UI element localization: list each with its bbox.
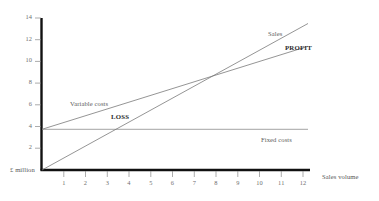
x-tick-label-7: 7: [186, 180, 202, 186]
x-tick-label-8: 8: [208, 180, 224, 186]
sales-line: [42, 24, 308, 171]
x-tick-label-1: 1: [56, 180, 72, 186]
x-tick-label-10: 10: [252, 180, 268, 186]
y-tick-label-10: 10: [14, 57, 32, 63]
sales-line-label: Sales: [268, 31, 282, 38]
fixed-costs-label: Fixed costs: [261, 137, 292, 144]
loss-region-label: LOSS: [111, 114, 129, 121]
y-tick-label-12: 12: [14, 36, 32, 42]
variable-costs-label: Variable costs: [70, 101, 108, 108]
x-tick-label-5: 5: [143, 180, 159, 186]
x-tick-label-11: 11: [273, 180, 289, 186]
y-axis-caption: £ million: [10, 167, 35, 174]
x-tick-label-2: 2: [78, 180, 94, 186]
x-tick-label-9: 9: [230, 180, 246, 186]
break-even-chart: 14 12 10 8 6 4 2 1 2 3 4 5 6 7 8 9 10 11…: [0, 0, 379, 201]
y-axis-ticks: [35, 18, 41, 148]
y-tick-label-4: 4: [14, 123, 32, 129]
x-axis-ticks: [64, 171, 303, 177]
x-tick-label-12: 12: [295, 180, 311, 186]
y-tick-label-14: 14: [14, 14, 32, 20]
y-tick-label-2: 2: [14, 144, 32, 150]
y-tick-label-8: 8: [14, 79, 32, 85]
chart-canvas: [0, 0, 379, 201]
y-tick-label-6: 6: [14, 101, 32, 107]
profit-region-label: PROFIT: [285, 45, 312, 52]
variable-costs-line: [42, 46, 308, 129]
x-tick-label-6: 6: [165, 180, 181, 186]
x-tick-label-3: 3: [99, 180, 115, 186]
x-tick-label-4: 4: [121, 180, 137, 186]
x-axis-caption: Sales volume: [322, 174, 359, 181]
